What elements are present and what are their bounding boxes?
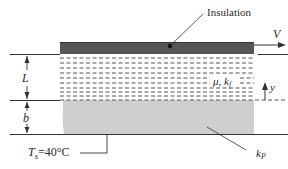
fluid-thickness-label: L [22, 72, 29, 84]
ts-value: =40°C [38, 145, 70, 159]
velocity-arrow-icon [254, 42, 286, 48]
insulation-plate [60, 42, 254, 54]
fluid-properties-label: μ, kf [213, 76, 231, 89]
ts-symbol: T [28, 145, 35, 159]
plate-thickness-label: b [23, 112, 29, 124]
kp-subscript: P [261, 152, 266, 161]
surface-temperature-label: Ts=40°C [28, 146, 70, 161]
insulation-leader [170, 14, 203, 46]
insulation-label: Insulation [207, 7, 251, 18]
diagram-canvas [0, 0, 288, 169]
y-axis-arrow-icon [262, 82, 268, 100]
plate-conductivity-label: kP [256, 148, 266, 161]
velocity-label: V [273, 28, 280, 40]
solid-plate [63, 100, 254, 134]
k-subscript: f [229, 80, 231, 89]
ts-leader [80, 134, 107, 153]
fluid-layer [60, 58, 286, 100]
y-coordinate-label: y [270, 82, 275, 93]
